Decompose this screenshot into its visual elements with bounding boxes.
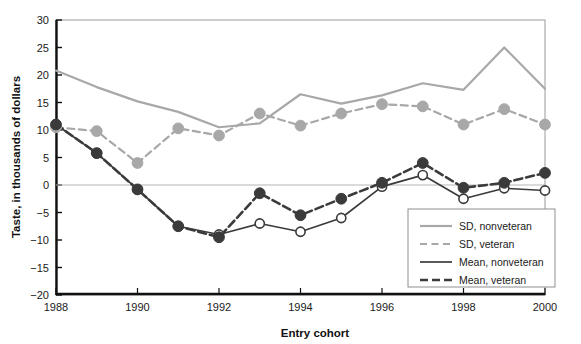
chart-background [0, 0, 581, 344]
data-point-marker [91, 148, 102, 159]
data-point-marker [255, 219, 264, 228]
chart-legend: SD, nonveteranSD, veteranMean, nonvetera… [408, 209, 555, 287]
data-point-marker [377, 99, 388, 110]
x-tick-label: 1998 [451, 301, 475, 313]
data-point-marker [51, 119, 62, 130]
data-point-marker [214, 232, 225, 243]
data-point-marker [499, 177, 510, 188]
data-point-marker [458, 119, 469, 130]
y-tick-label: −20 [30, 289, 49, 301]
x-tick-label: 1994 [288, 301, 312, 313]
x-tick-label: 1990 [125, 301, 149, 313]
data-point-marker [254, 108, 265, 119]
data-point-marker [458, 182, 469, 193]
y-tick-label: −15 [30, 262, 49, 274]
y-tick-label: 15 [37, 97, 49, 109]
data-point-marker [499, 104, 510, 115]
data-point-marker [336, 193, 347, 204]
data-point-marker [459, 194, 468, 203]
data-point-marker [417, 101, 428, 112]
y-tick-label: 0 [43, 179, 49, 191]
legend-item-label: SD, nonveteran [459, 220, 532, 232]
legend-item-label: Mean, nonveteran [459, 256, 544, 268]
x-axis-title: Entry cohort [281, 327, 350, 339]
data-point-marker [295, 120, 306, 131]
x-tick-label: 1992 [207, 301, 231, 313]
data-point-marker [296, 227, 305, 236]
data-point-marker [173, 123, 184, 134]
chart-figure: −20−15−10−5051015202530 1988199019921994… [0, 0, 581, 344]
data-point-marker [540, 168, 551, 179]
y-tick-label: 10 [37, 124, 49, 136]
data-point-marker [173, 221, 184, 232]
data-point-marker [540, 186, 549, 195]
y-tick-label: 25 [37, 42, 49, 54]
data-point-marker [132, 158, 143, 169]
data-point-marker [540, 119, 551, 130]
x-tick-label: 2000 [533, 301, 557, 313]
data-point-marker [417, 158, 428, 169]
data-point-marker [214, 130, 225, 141]
data-point-marker [337, 213, 346, 222]
data-point-marker [132, 184, 143, 195]
data-point-marker [377, 177, 388, 188]
y-tick-label: 30 [37, 14, 49, 26]
y-tick-label: 5 [43, 152, 49, 164]
y-tick-label: −10 [30, 234, 49, 246]
data-point-marker [418, 171, 427, 180]
y-tick-label: 20 [37, 69, 49, 81]
y-tick-label: −5 [36, 207, 49, 219]
x-tick-label: 1996 [370, 301, 394, 313]
data-point-marker [336, 108, 347, 119]
y-axis-title: Taste, in thousands of dollars [10, 76, 22, 238]
legend-item-label: SD, veteran [459, 238, 515, 250]
data-point-marker [295, 210, 306, 221]
data-point-marker [254, 188, 265, 199]
x-tick-label: 1988 [44, 301, 68, 313]
legend-item-label: Mean, veteran [459, 274, 526, 286]
data-point-marker [91, 126, 102, 137]
